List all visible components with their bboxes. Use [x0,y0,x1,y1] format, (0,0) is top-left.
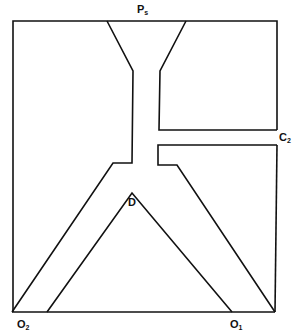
label-divider-d: D [128,197,136,208]
label-o2-main: O [17,318,26,330]
label-control-sub: 2 [287,137,291,144]
label-supply-sub: s [144,9,148,16]
label-control-main: C [279,131,287,143]
outer-box-left-wall [13,21,277,312]
divider-wedge [47,193,232,312]
left-channel-wall [12,21,133,312]
outer-box-right-wall [275,145,277,312]
label-output-o1: O1 [230,319,242,331]
label-output-o2: O2 [17,319,29,331]
label-o1-sub: 1 [239,324,243,331]
label-supply-ps: Ps [137,4,148,16]
right-channel-wall-upper [159,21,277,130]
label-control-c2: C2 [279,132,291,144]
label-o2-sub: 2 [26,324,30,331]
right-channel-wall-lower [158,145,277,312]
label-o1-main: O [230,318,239,330]
fluidic-diagram [0,0,297,333]
label-divider-main: D [128,196,136,208]
